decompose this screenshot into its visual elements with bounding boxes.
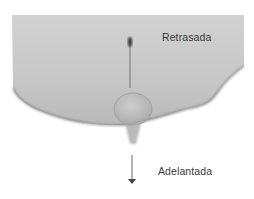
navel bbox=[128, 37, 132, 47]
bulb-neck bbox=[125, 123, 141, 144]
abdomen-figure: Retrasada Adelantada bbox=[0, 0, 254, 199]
abdomen-photo bbox=[0, 0, 254, 199]
bulb-shape bbox=[114, 93, 152, 125]
arrow-down-icon bbox=[128, 179, 136, 184]
label-retrasada: Retrasada bbox=[162, 31, 211, 43]
label-adelantada: Adelantada bbox=[158, 165, 212, 177]
